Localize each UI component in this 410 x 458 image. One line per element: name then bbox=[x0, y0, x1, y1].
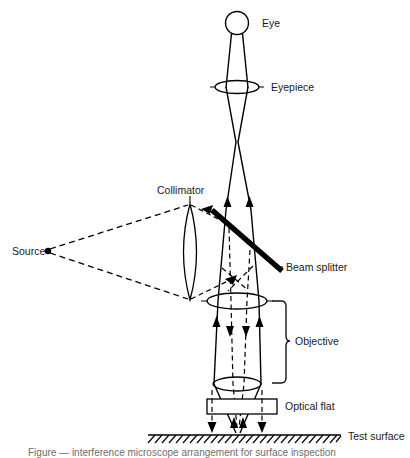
optical-flat-plate bbox=[207, 399, 277, 414]
imaging-ray-right-upper bbox=[238, 87, 251, 210]
label-eyepiece: Eyepiece bbox=[271, 81, 314, 93]
eye-symbol bbox=[226, 12, 249, 35]
beam-splitter-bar bbox=[212, 210, 282, 271]
source-ray-lower bbox=[50, 253, 188, 299]
arrowhead-up-right-objective bbox=[256, 316, 264, 327]
imaging-ray-left-upper bbox=[226, 87, 236, 210]
arrowhead-down-surface-left bbox=[208, 422, 217, 433]
figure-caption: Figure — interference microscope arrange… bbox=[28, 448, 336, 458]
source-ray-upper bbox=[50, 205, 188, 249]
arrowhead-up-right-upper bbox=[246, 196, 254, 207]
test-surface-hatching bbox=[148, 435, 341, 443]
objective-bracket bbox=[272, 301, 290, 383]
arrowhead-up-left-upper bbox=[224, 196, 232, 207]
arrowhead-down-right-objective bbox=[242, 326, 250, 337]
arrowhead-down-left-objective bbox=[226, 326, 234, 337]
figure-caption-strip: Figure — interference microscope arrange… bbox=[0, 448, 410, 458]
objective-lower-lens bbox=[213, 377, 261, 391]
eye-ray-right bbox=[243, 34, 249, 89]
arrowhead-up-left-objective bbox=[213, 316, 221, 327]
label-eye: Eye bbox=[262, 17, 280, 29]
diagram-canvas: Eye Eyepiece Collimator Source Beam spli… bbox=[0, 0, 410, 458]
eyepiece-lens bbox=[215, 81, 259, 94]
label-collimator: Collimator bbox=[157, 184, 205, 196]
collimator-lens bbox=[184, 204, 197, 300]
eye-ray-left bbox=[226, 34, 232, 89]
objective-ray-left bbox=[214, 301, 218, 384]
objective-upper-lens bbox=[207, 293, 267, 309]
label-test-surface: Test surface bbox=[348, 430, 405, 442]
optics-diagram: Eye Eyepiece Collimator Source Beam spli… bbox=[0, 0, 410, 458]
label-beam-splitter: Beam splitter bbox=[286, 261, 348, 273]
label-source: Source bbox=[12, 245, 45, 257]
objective-ray-right bbox=[259, 301, 261, 384]
label-optical-flat: Optical flat bbox=[285, 400, 335, 412]
arrowhead-down-surface-right bbox=[258, 422, 267, 433]
collimated-ray-lower bbox=[191, 279, 232, 299]
label-objective: Objective bbox=[295, 335, 339, 347]
imaging-ray-right-lower bbox=[251, 210, 259, 301]
